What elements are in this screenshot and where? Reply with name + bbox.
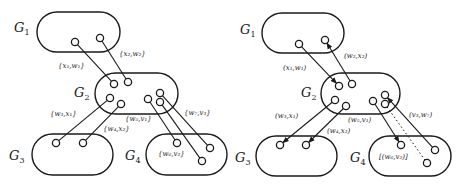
node-g4b [431, 146, 438, 153]
edge-label: (x₁,w₁) [283, 64, 307, 72]
node-g2f [381, 91, 388, 98]
node-g2b [124, 78, 131, 85]
group-g2-shape [95, 73, 178, 114]
edge-label: (w₄,x₂) [327, 127, 351, 135]
figure-canvas: G1G2G3G4{x₁,w₁}{x₂,w₂}{w₃,x₁}{w₄,x₂}{w₅,… [0, 0, 465, 186]
node-g3a [52, 139, 59, 146]
node-g2g [381, 100, 388, 107]
edge-label: (v₃,w₇) [409, 111, 433, 119]
group-g3-label: G3 [235, 150, 250, 167]
graph-decomposition-figure: G1G2G3G4{x₁,w₁}{x₂,w₂}{w₃,x₁}{w₄,x₂}{w₅,… [0, 0, 465, 186]
node-g2e [369, 97, 376, 104]
edge-label: (w₅,v₁) [348, 116, 372, 124]
node-g2a [110, 80, 117, 87]
node-g1a [71, 38, 78, 45]
node-g2c [106, 94, 113, 101]
node-g3b [302, 141, 309, 148]
left-panel: G1G2G3G4{x₁,w₁}{x₂,w₂}{w₃,x₁}{w₄,x₂}{w₅,… [9, 12, 227, 175]
node-g1a [295, 40, 302, 47]
node-g4a [397, 141, 404, 148]
node-g2g [156, 98, 163, 105]
group-g2-label: G2 [301, 85, 316, 102]
group-g3-label: G3 [9, 148, 24, 165]
group-g1-label: G1 [14, 20, 29, 37]
edge-label: {w₆,v₂} [158, 150, 185, 158]
node-g3a [276, 141, 283, 148]
edge-label: {w₅,v₁} [125, 115, 152, 123]
node-g2e [144, 95, 151, 102]
node-g4c [198, 157, 205, 164]
edge-label: {w₇,v₃} [184, 109, 211, 117]
edge-label: (w₃,x₁) [275, 112, 299, 120]
node-g2d [117, 100, 124, 107]
edge-label: {w₄,x₂} [103, 125, 130, 133]
node-g2d [342, 102, 349, 109]
edge-label: {x₂,w₂} [119, 50, 146, 58]
group-g1-shape [262, 13, 344, 53]
node-g2b [348, 80, 355, 87]
edge-label: {w₃,x₁} [50, 110, 77, 118]
node-g2a [335, 82, 342, 89]
node-g4b [206, 144, 213, 151]
edge-label: {x₁,w₁} [58, 62, 85, 70]
node-g4a [173, 139, 180, 146]
group-g3-shape [256, 136, 337, 176]
edge-label: [(w₆,v₂)] [379, 153, 408, 161]
node-g1b [321, 36, 328, 43]
node-g1b [96, 34, 103, 41]
group-g3-shape [32, 134, 113, 175]
group-g4-label: G4 [350, 150, 365, 167]
node-g2c [331, 96, 338, 103]
group-g2-label: G2 [74, 85, 89, 102]
group-g4-label: G4 [125, 148, 140, 165]
node-g2f [156, 89, 163, 96]
edge-label: (w₂,x₂) [344, 52, 368, 60]
group-g1-label: G1 [240, 22, 255, 39]
right-panel: G1G2G3G4(x₁,w₁)(w₂,x₂)(w₃,x₁)(w₄,x₂)(w₅,… [235, 13, 451, 176]
edge-g2d-g3b [86, 107, 119, 141]
edge-g2b-g1b [327, 43, 350, 81]
node-g3b [79, 139, 86, 146]
node-g4c [423, 159, 430, 166]
